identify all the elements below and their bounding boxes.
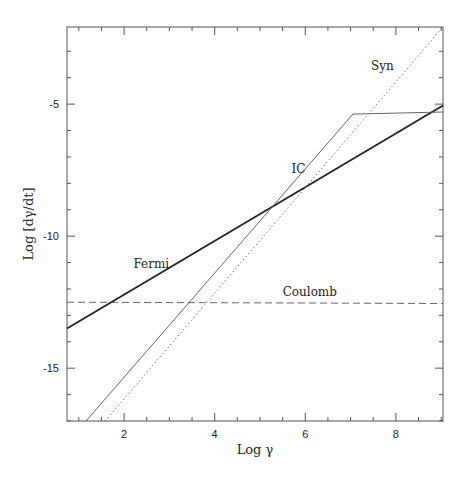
x-axis-ticks: 2468 bbox=[79, 27, 441, 440]
series-syn-label: Syn bbox=[371, 59, 394, 73]
y-axis-ticks: -5-10-15 bbox=[43, 51, 443, 421]
series-coulomb-line bbox=[67, 302, 443, 303]
series-coulomb-label: Coulomb bbox=[283, 285, 338, 299]
series-labels: FermiICSynCoulomb bbox=[133, 59, 394, 299]
series-fermi-label: Fermi bbox=[133, 257, 169, 271]
chart: 2468 -5-10-15 FermiICSynCoulomb Log γ Lo… bbox=[0, 0, 464, 483]
x-tick-label: 8 bbox=[393, 428, 399, 440]
x-tick-label: 4 bbox=[212, 428, 218, 440]
x-tick-label: 2 bbox=[121, 428, 127, 440]
x-axis-label: Log γ bbox=[237, 442, 274, 457]
x-tick-label: 6 bbox=[302, 428, 308, 440]
y-axis-label: Log [dγ/dt] bbox=[21, 187, 36, 260]
series-syn-line bbox=[105, 27, 443, 421]
plot-frame bbox=[67, 27, 443, 421]
y-tick-label: -5 bbox=[49, 98, 59, 110]
series-layer bbox=[67, 27, 443, 421]
y-tick-label: -10 bbox=[43, 230, 59, 242]
y-tick-label: -15 bbox=[43, 362, 59, 374]
series-ic-label: IC bbox=[292, 162, 306, 176]
plot-border bbox=[67, 27, 443, 421]
series-fermi-line bbox=[67, 105, 443, 328]
